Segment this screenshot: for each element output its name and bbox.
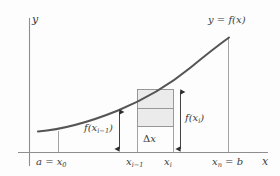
deltax-x: x — [150, 133, 156, 144]
tick-label-xi: xi — [164, 157, 172, 167]
tick-xim1-sub: i−1 — [132, 161, 144, 169]
label-delta-x: Δx — [143, 134, 156, 144]
tick-label-xi-minus-1: xi−1 — [126, 157, 143, 167]
tick-b-x: x — [212, 156, 218, 167]
fxim1-open: (x — [88, 122, 98, 133]
fxi-close: ) — [200, 112, 204, 123]
label-f-xi-minus-1: f(xi−1) — [84, 123, 113, 133]
tick-a-sub: 0 — [62, 161, 66, 169]
tick-xi-x: x — [164, 156, 170, 167]
curve-equation-label: y = f(x) — [208, 15, 246, 25]
x-axis-label: x — [262, 156, 268, 167]
tick-xim1-x: x — [126, 156, 132, 167]
tick-xi-sub: i — [170, 161, 172, 169]
fxi-open: (x — [189, 112, 199, 123]
y-axis-label: y — [32, 14, 38, 25]
label-f-xi: f(xi) — [185, 113, 204, 123]
figure-canvas — [0, 0, 280, 176]
riemann-sum-figure: y x y = f(x) a = x0 xi−1 xi xn = b f(xi−… — [0, 0, 280, 176]
fxim1-sub: i−1 — [97, 127, 109, 135]
fxim1-close: ) — [109, 122, 113, 133]
tick-b-eq: = — [222, 156, 237, 167]
tick-a-eq: = — [42, 156, 57, 167]
tick-b-sub: n — [218, 161, 222, 169]
riemann-rectangle — [138, 90, 174, 127]
tick-label-a: a = x0 — [36, 157, 67, 167]
tick-label-b: xn = b — [212, 157, 243, 167]
tick-b-var: b — [237, 156, 243, 167]
